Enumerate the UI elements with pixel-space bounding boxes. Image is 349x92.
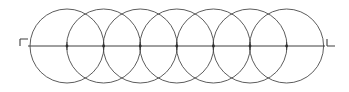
figure-canvas [0,0,349,92]
circle-chain-diagram [0,0,349,92]
center-point-6 [249,45,252,48]
center-point-5 [212,45,215,48]
center-point-4 [175,45,178,48]
center-point-2 [102,45,105,48]
center-point-3 [139,45,142,48]
center-point-1 [66,45,69,48]
center-point-7 [285,45,288,48]
